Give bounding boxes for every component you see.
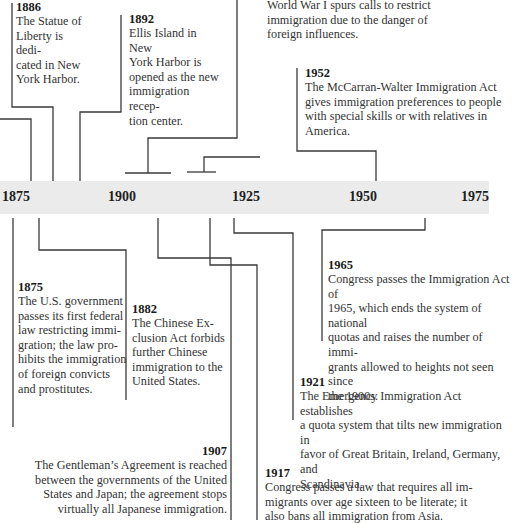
event-text-line: The Chinese Ex-	[132, 316, 227, 331]
event-text-line: York Harbor is	[129, 55, 219, 70]
event-text-line: further Chinese	[132, 345, 227, 360]
event-text-line: States and Japan; the agreement stops	[20, 487, 227, 502]
connector-1875-top	[0, 119, 31, 181]
event-text-line: law restricting immi-	[18, 323, 128, 338]
event-text-line: and prostitutes.	[18, 382, 128, 397]
event-1886: 1886 The Statue of Liberty is dedi- cate…	[16, 0, 86, 87]
event-1952: 1952 The McCarran-Walter Immigration Act…	[305, 66, 505, 138]
event-text-line: United States.	[132, 374, 227, 389]
event-text-line: The Gentleman’s Agreement is reached	[20, 458, 227, 473]
event-text-line: opened as the new	[129, 70, 219, 85]
event-year: 1965	[328, 258, 512, 272]
event-text-line: passes its first federal	[18, 309, 128, 324]
event-text-line: gration; the law pro-	[18, 338, 128, 353]
event-year: 1917	[265, 466, 510, 480]
event-text-line: tion center.	[129, 114, 219, 129]
event-year: 1952	[305, 66, 505, 80]
event-text-line: cated in New	[16, 58, 86, 73]
event-text-line: with special skills or with relatives in	[305, 109, 505, 124]
connector-1921	[234, 218, 293, 420]
event-text-line: Congress passes a law that requires all …	[265, 480, 510, 495]
event-text-line: The Emergency Immigration Act establishe…	[300, 389, 512, 418]
event-text-line: gives immigration preferences to people	[305, 95, 505, 110]
event-1892: 1892 Ellis Island in New York Harbor is …	[129, 12, 219, 128]
event-year: 1886	[16, 0, 86, 14]
event-text-line: also bans all immigration from Asia.	[265, 509, 510, 524]
event-year: 1875	[18, 280, 128, 294]
event-1907: 1907 The Gentleman’s Agreement is reache…	[20, 444, 227, 516]
event-year: 1907	[20, 444, 227, 458]
event-text-line: immigration recep-	[129, 84, 219, 113]
event-text-line: immigration to the	[132, 360, 227, 375]
event-text-line: The Statue of	[16, 14, 86, 29]
event-text-line: of foreign convicts	[18, 367, 128, 382]
event-text-line: migrants over age sixteen to be literate…	[265, 495, 510, 510]
event-text-line: hibits the immigration	[18, 352, 128, 367]
event-text-line: The McCarran-Walter Immigration Act	[305, 80, 505, 95]
event-text-line: The U.S. government	[18, 294, 128, 309]
event-year: 1921	[300, 375, 512, 389]
connector-1892	[80, 15, 121, 181]
event-text-line: quotas and raises the number of immi-	[328, 330, 512, 359]
event-text-line: a quota system that tilts new immigratio…	[300, 418, 512, 447]
event-year: 1882	[132, 302, 227, 316]
event-text-line: World War I spurs calls to restrict	[267, 0, 467, 13]
event-year: 1892	[129, 12, 219, 26]
event-text-line: between the governments of the United	[20, 473, 227, 488]
event-text-line: virtually all Japanese immigration.	[20, 502, 227, 517]
event-1882: 1882 The Chinese Ex- clusion Act forbids…	[132, 302, 227, 389]
event-text-line: immigration due to the danger of	[267, 13, 467, 28]
event-text-line: 1965, which ends the system of national	[328, 301, 512, 330]
connector-wwi-2	[204, 157, 260, 172]
event-text-line: Ellis Island in New	[129, 26, 219, 55]
event-text-line: clusion Act forbids	[132, 331, 227, 346]
event-1917: 1917 Congress passes a law that requires…	[265, 466, 510, 524]
event-text-line: Liberty is dedi-	[16, 29, 86, 58]
event-text-line: Congress passes the Immigration Act of	[328, 272, 512, 301]
event-wwi: World War I spurs calls to restrict immi…	[267, 0, 467, 42]
event-text-line: foreign influences.	[267, 27, 467, 42]
event-text-line: York Harbor.	[16, 72, 86, 87]
event-text-line: America.	[305, 124, 505, 139]
event-1875: 1875 The U.S. government passes its firs…	[18, 280, 128, 396]
